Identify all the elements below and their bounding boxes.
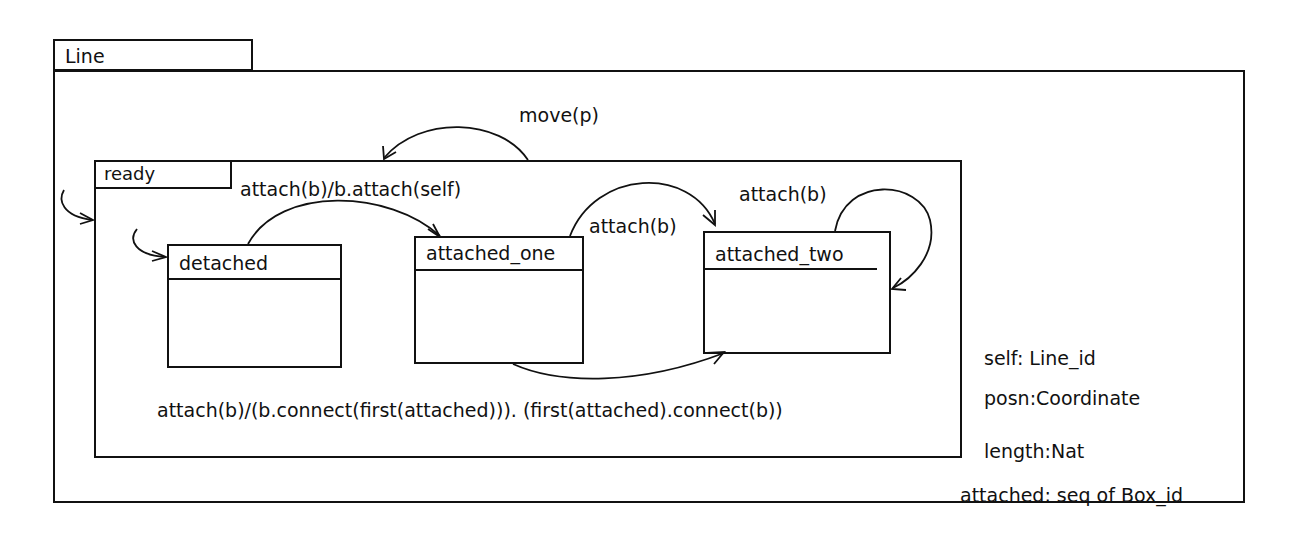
transition-label-detached-to-one: attach(b)/b.attach(self) [240, 180, 461, 199]
transition-label-move: move(p) [519, 106, 599, 125]
transition-label-one-to-two: attach(b) [589, 217, 677, 236]
state-detached: detached [167, 244, 342, 368]
line-state-tab: Line [53, 39, 253, 71]
state-detached-title: detached [169, 246, 340, 280]
attribute-posn: posn:Coordinate [984, 389, 1140, 408]
attribute-length: length:Nat [984, 442, 1084, 461]
transition-label-one-to-two-bottom: attach(b)/(b.connect(first(attached))). … [157, 401, 783, 420]
state-attached-two-title: attached_two [705, 233, 877, 270]
state-attached-one: attached_one [414, 236, 584, 364]
line-state-title: Line [65, 47, 105, 66]
attribute-attached: attached: seq of Box_id [960, 486, 1183, 505]
state-attached-one-title: attached_one [416, 238, 582, 271]
state-attached-two: attached_two [703, 231, 891, 354]
transition-label-two-self: attach(b) [739, 185, 827, 204]
attribute-self: self: Line_id [984, 349, 1096, 368]
